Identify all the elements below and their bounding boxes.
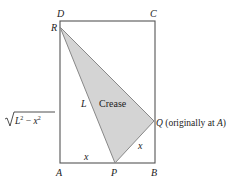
label-D: D	[56, 8, 65, 19]
label-crease: Crease	[99, 98, 127, 109]
label-B: B	[151, 167, 157, 178]
label-A: A	[55, 167, 63, 178]
label-x-bottom: x	[83, 151, 89, 162]
label-x-slant: x	[137, 140, 143, 151]
label-R: R	[50, 22, 57, 33]
label-C: C	[150, 8, 157, 19]
crease-diagram: D C R A P B L Crease x x Q (originally a…	[0, 0, 246, 187]
left-side-length-label: L2 − x2	[5, 112, 55, 126]
label-L: L	[80, 98, 87, 109]
svg-text:L2 − x2: L2 − x2	[14, 115, 41, 126]
label-Q-note: Q (originally at A)	[156, 118, 226, 129]
q-note-prefix: (originally at	[163, 118, 217, 129]
q-note-suffix: )	[223, 118, 226, 129]
sqrt-sup2: 2	[38, 115, 41, 121]
label-P: P	[110, 167, 117, 178]
sqrt-minus: −	[23, 116, 33, 126]
